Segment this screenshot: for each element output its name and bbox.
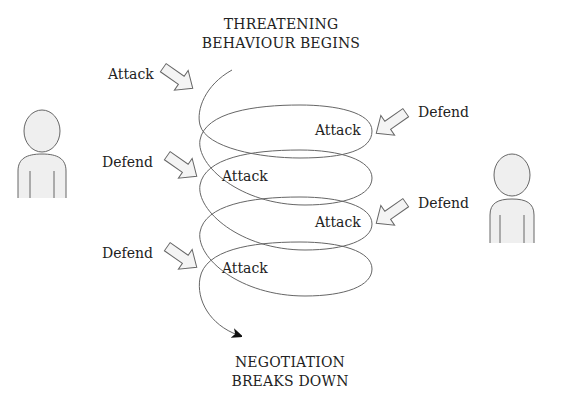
left-label-defend-2: Defend <box>102 245 153 261</box>
top-title-line1: THREATENING <box>151 15 411 34</box>
left-label-defend-1: Defend <box>102 154 153 170</box>
right-label-defend-1: Defend <box>418 104 469 120</box>
top-title-line2: BEHAVIOUR BEGINS <box>151 34 411 53</box>
escalation-spiral-diagram: THREATENING BEHAVIOUR BEGINS NEGOTIATION… <box>0 0 572 405</box>
bottom-title-line2: BREAKS DOWN <box>160 372 420 391</box>
top-title: THREATENING BEHAVIOUR BEGINS <box>151 15 411 53</box>
arrow-right-2 <box>369 193 412 233</box>
spiral-label-attack-4: Attack <box>222 260 268 276</box>
right-person-icon <box>490 154 534 243</box>
spiral-label-attack-3: Attack <box>315 214 361 230</box>
bottom-title: NEGOTIATION BREAKS DOWN <box>160 353 420 391</box>
right-label-defend-2: Defend <box>418 195 469 211</box>
arrow-left-3 <box>160 237 203 277</box>
spiral-path <box>199 70 372 335</box>
spiral-label-attack-1: Attack <box>315 122 361 138</box>
spiral-label-attack-2: Attack <box>222 168 268 184</box>
arrow-left-2 <box>160 146 203 186</box>
left-person-icon <box>18 110 66 198</box>
bottom-title-line1: NEGOTIATION <box>160 353 420 372</box>
arrow-right-1 <box>369 103 412 143</box>
arrow-left-1 <box>156 58 199 98</box>
block-arrows <box>156 58 412 277</box>
left-label-attack: Attack <box>108 66 154 82</box>
diagram-graphics <box>0 0 572 405</box>
